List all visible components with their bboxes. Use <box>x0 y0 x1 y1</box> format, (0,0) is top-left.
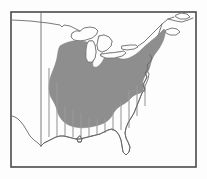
lake-michigan-cutout <box>86 41 96 62</box>
map-canvas <box>0 0 207 179</box>
range-map-figure: Continuous range (shaded) Disjunct / out… <box>0 0 207 179</box>
